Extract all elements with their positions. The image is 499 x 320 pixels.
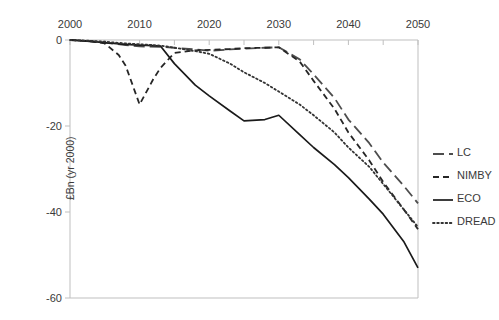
legend-entry-eco[interactable]: ECO (432, 186, 498, 209)
chart-legend: LCNIMBYECODREAD (432, 140, 498, 232)
x-axis-tick-label: 2040 (336, 18, 360, 30)
y-axis-tick-label: 0 (22, 34, 62, 46)
legend-label: DREAD (457, 215, 496, 227)
legend-swatch-nimby-icon (432, 169, 454, 181)
legend-entry-nimby[interactable]: NIMBY (432, 163, 498, 186)
x-axis-tick-label: 2020 (197, 18, 221, 30)
chart-container: 200020102020203020402050 0-20-40-60 £Bn … (0, 0, 499, 320)
legend-entry-lc[interactable]: LC (432, 140, 498, 163)
y-axis-tick-label: -60 (22, 292, 62, 304)
legend-label: LC (457, 146, 471, 158)
plot-area: 200020102020203020402050 0-20-40-60 £Bn … (70, 40, 418, 298)
legend-swatch-dread-icon (432, 215, 454, 227)
x-axis-tick-label: 2010 (127, 18, 151, 30)
legend-swatch-eco-icon (432, 192, 454, 204)
legend-label: ECO (457, 192, 481, 204)
y-axis-tick-label: -20 (22, 120, 62, 132)
x-axis-tick-label: 2030 (267, 18, 291, 30)
legend-swatch-lc-icon (432, 146, 454, 158)
x-axis-tick-label: 2050 (406, 18, 430, 30)
legend-entry-dread[interactable]: DREAD (432, 209, 498, 232)
legend-label: NIMBY (457, 169, 492, 181)
y-axis-tick-label: -40 (22, 206, 62, 218)
x-axis-tick-label: 2000 (58, 18, 82, 30)
y-axis-title: £Bn (yr 2000) (64, 136, 76, 200)
